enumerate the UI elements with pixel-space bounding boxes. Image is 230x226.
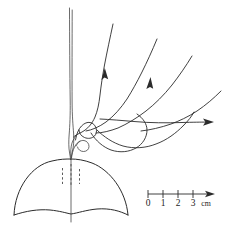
filament-horizontal-tail-path [100, 119, 206, 123]
splash-diagram-figure: 0 1 2 3 cm [0, 0, 230, 226]
filament-middle-arrowed-path [86, 39, 157, 131]
diagram-canvas: 0 1 2 3 cm [0, 0, 230, 226]
dome-group [14, 159, 128, 222]
scale-label-1: 1 [161, 198, 166, 208]
arrow-up-inner-icon [101, 68, 108, 80]
scale-label-2: 2 [176, 198, 181, 208]
filament-middle-arrowed [86, 39, 157, 131]
filament-inner-arrowed-path [74, 24, 114, 137]
arrow-up-middle-icon [146, 77, 153, 89]
filament-horizontal-arrowed-path [141, 91, 221, 131]
scale-unit-label: cm [201, 199, 211, 208]
scale-label-3: 3 [191, 198, 196, 208]
vertical-jet-group [69, 8, 74, 160]
scale-bar-group: 0 1 2 3 cm [146, 190, 215, 208]
filament-inner-arrowed [74, 24, 114, 137]
jet-left-edge [69, 8, 71, 160]
scale-label-0: 0 [146, 198, 151, 208]
